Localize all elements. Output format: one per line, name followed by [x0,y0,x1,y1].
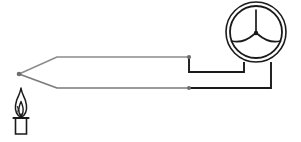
upper-wire-corner-dot [187,55,191,59]
wiring-group [19,57,271,88]
upper-wire [19,57,189,74]
lower-wire [19,74,189,88]
thermocouple-diagram [0,0,301,142]
meter-left-lead [189,57,244,72]
meter-right-lead [189,62,271,88]
lower-wire-tap-dot [187,86,191,90]
diagram-canvas [0,0,301,142]
junction-dots-group [17,55,191,90]
meter-pivot-hub [254,31,258,35]
candle-body [16,118,27,134]
hot-junction-dot [17,72,22,77]
candle-group [14,88,29,134]
galvanometer-meter [226,2,286,62]
